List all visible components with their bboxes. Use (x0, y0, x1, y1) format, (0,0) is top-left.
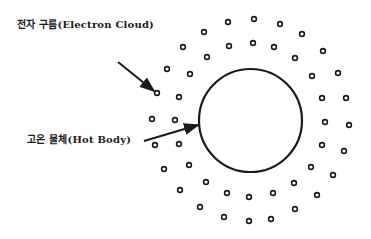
electron-dot (309, 165, 314, 170)
electron-dot (347, 123, 352, 128)
electron-dot (202, 30, 207, 35)
hot-body-label: 고온 물체(Hot Body) (27, 131, 131, 146)
electron-dot (320, 143, 325, 148)
hot-body-arrow (144, 125, 198, 141)
electron-dot (204, 180, 209, 185)
electron-dot (292, 181, 297, 186)
electron-dot (177, 142, 182, 147)
electron-dot (336, 71, 341, 76)
electron-dot (227, 44, 232, 49)
electron-dot (300, 32, 305, 37)
electron-dot (155, 91, 160, 96)
electron-dot (251, 41, 256, 46)
electron-dot (150, 117, 155, 122)
electron-dot (331, 173, 336, 178)
electron-dot (321, 49, 326, 54)
electron-dot (293, 207, 298, 212)
electron-dot (293, 56, 298, 61)
electron-dot (247, 219, 252, 224)
electron-dot (272, 45, 277, 50)
electron-dot (310, 74, 315, 79)
electron-dot (153, 143, 158, 148)
electron-dot (177, 95, 182, 100)
electron-dot (342, 149, 347, 154)
electron-cloud-label: 전자 구름(Electron Cloud) (17, 16, 154, 31)
electron-dot (247, 195, 252, 200)
electron-dot (344, 96, 349, 101)
electron-dot (178, 188, 183, 193)
electron-dot (162, 167, 167, 172)
electron-dot (323, 120, 328, 125)
electron-dot (225, 191, 230, 196)
electron-dot (173, 118, 178, 123)
electron-dot (222, 215, 227, 220)
electron-dot (226, 20, 231, 25)
electron-dot (252, 17, 257, 22)
electron-dot (278, 22, 283, 27)
electron-dot (320, 96, 325, 101)
hot-body-circle (199, 69, 302, 172)
electron-cloud-arrow (118, 62, 154, 91)
electron-dot (188, 72, 193, 77)
electron-dot (205, 55, 210, 60)
electron-dot (181, 45, 186, 50)
electron-dot (271, 191, 276, 196)
electron-dot (269, 217, 274, 222)
electron-dot (165, 67, 170, 72)
electron-dot (187, 163, 192, 168)
electron-cloud-diagram (0, 0, 371, 239)
electron-cloud-dots (150, 17, 352, 224)
electron-dot (198, 205, 203, 210)
electron-dot (315, 193, 320, 198)
